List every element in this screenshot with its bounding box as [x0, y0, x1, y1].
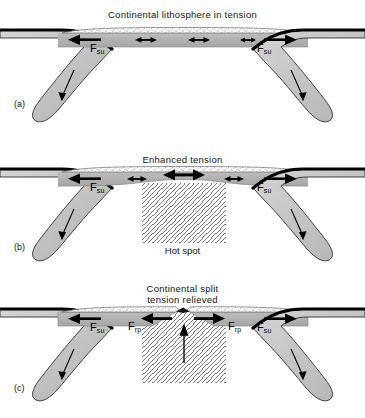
panel-a-cross-section — [0, 0, 365, 139]
force-subscript: su — [264, 327, 272, 334]
force-label-fsu-right-b: Fsu — [257, 182, 272, 196]
panel-letter-b: (b) — [14, 242, 25, 252]
force-label-fsu-left-c: Fsu — [90, 322, 105, 336]
force-symbol: F — [257, 42, 264, 54]
panel-b: Enhanced tension — [0, 139, 365, 278]
hot-spot-label-b: Hot spot — [0, 245, 365, 256]
force-label-fsu-left-b: Fsu — [90, 182, 105, 196]
force-subscript: rp — [235, 326, 242, 333]
force-label-frp-left-c: Frp — [128, 321, 141, 335]
panel-c: Continental split tension relieved — [0, 279, 365, 418]
panel-letter-a: (a) — [14, 99, 25, 109]
force-label-fsu-right-a: Fsu — [257, 43, 272, 57]
force-label-fsu-left-a: Fsu — [90, 43, 105, 57]
force-symbol: F — [90, 42, 97, 54]
force-label-frp-right-c: Frp — [228, 321, 241, 335]
force-subscript: su — [97, 48, 105, 55]
force-symbol: F — [257, 181, 264, 193]
panel-b-cross-section — [0, 139, 365, 278]
force-symbol: F — [90, 321, 97, 333]
hot-spot-block-b — [142, 183, 226, 243]
force-label-fsu-right-c: Fsu — [257, 322, 272, 336]
force-subscript: su — [97, 327, 105, 334]
panel-a: Continental lithosphere in tension — [0, 0, 365, 139]
panel-c-cross-section — [0, 279, 365, 418]
continental-crust-layer-b — [62, 167, 306, 173]
force-subscript: su — [97, 187, 105, 194]
force-subscript: rp — [135, 326, 142, 333]
force-subscript: su — [264, 187, 272, 194]
force-symbol: F — [257, 321, 264, 333]
force-symbol: F — [90, 181, 97, 193]
continental-crust-layer-c — [62, 307, 306, 313]
force-symbol: F — [228, 320, 235, 332]
force-symbol: F — [128, 320, 135, 332]
force-subscript: su — [264, 48, 272, 55]
panel-letter-c: (c) — [14, 383, 25, 393]
continental-crust-layer-a — [62, 28, 306, 34]
